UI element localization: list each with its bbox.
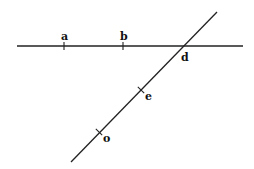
point-label-b: b bbox=[120, 30, 128, 43]
point-label-d: d bbox=[181, 51, 189, 64]
point-label-a: a bbox=[61, 30, 68, 43]
diagonal-line bbox=[71, 12, 217, 162]
diagram-svg: a b d e o bbox=[0, 0, 254, 169]
point-label-o: o bbox=[103, 132, 110, 145]
point-label-e: e bbox=[145, 90, 152, 103]
diagram-canvas: a b d e o bbox=[0, 0, 254, 169]
tick-o bbox=[96, 129, 102, 135]
